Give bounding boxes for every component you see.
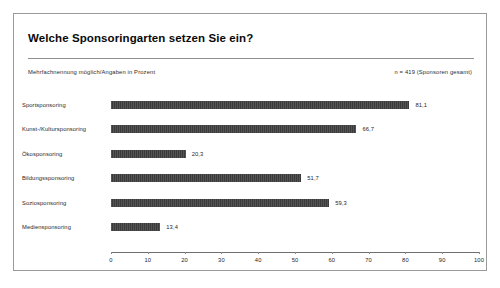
category-label: Mediensponsoring [22,224,106,230]
bar-track: 81,1 [111,101,479,109]
x-tick-mark [111,252,112,254]
bar-value-label: 20,3 [192,151,204,157]
x-tick-label: 100 [474,257,484,263]
bar-track: 59,3 [111,199,479,207]
bar [111,125,356,133]
category-label: Soziosponsoring [22,200,106,206]
bar-row: Soziosponsoring 59,3 [14,192,488,214]
bar [111,199,329,207]
bar-track: 20,3 [111,150,479,158]
x-tick-label: 50 [292,257,299,263]
bar-track: 51,7 [111,174,479,182]
x-tick-label: 40 [255,257,262,263]
bar-value-label: 81,1 [415,102,427,108]
bar-track: 66,7 [111,125,479,133]
bar-track: 13,4 [111,223,479,231]
x-tick-label: 70 [365,257,372,263]
bar-row: Sportsponsoring 81,1 [14,94,488,116]
bar-value-label: 59,3 [335,200,347,206]
bar-value-label: 51,7 [307,175,319,181]
plot-area: Sportsponsoring 81,1 Kunst-/Kultursponso… [14,94,488,272]
bar [111,174,301,182]
x-tick-mark [369,252,370,254]
x-tick-label: 30 [218,257,225,263]
x-tick-mark [295,252,296,254]
x-tick-label: 60 [328,257,335,263]
bar-row: Kunst-/Kultursponsoring 66,7 [14,119,488,141]
x-tick-mark [405,252,406,254]
x-tick-mark [221,252,222,254]
bar-row: Mediensponsoring 13,4 [14,217,488,239]
category-label: Ökosponsoring [22,151,106,157]
bar [111,150,186,158]
x-tick-mark [479,252,480,254]
sample-size-note: n = 419 (Sponsoren gesamt) [394,69,472,75]
x-tick-label: 90 [439,257,446,263]
bar-value-label: 13,4 [166,224,178,230]
x-tick-mark [185,252,186,254]
x-tick-mark [148,252,149,254]
x-tick-label: 10 [144,257,151,263]
bar [111,101,409,109]
bar-row: Ökosponsoring 20,3 [14,143,488,165]
x-tick-label: 0 [109,257,112,263]
category-label: Kunst-/Kultursponsoring [22,126,106,132]
title-divider [28,58,474,59]
x-tick-mark [332,252,333,254]
x-tick-mark [258,252,259,254]
category-label: Bildungssponsoring [22,175,106,181]
bar-value-label: 66,7 [362,126,374,132]
chart-title: Welche Sponsoringarten setzen Sie ein? [28,32,253,44]
bar [111,223,160,231]
bar-row: Bildungssponsoring 51,7 [14,168,488,190]
x-tick-mark [442,252,443,254]
category-label: Sportsponsoring [22,102,106,108]
chart-frame: Welche Sponsoringarten setzen Sie ein? M… [13,13,487,271]
x-tick-label: 80 [402,257,409,263]
chart-subtitle: Mehrfachnennung möglich/Angaben in Proze… [28,69,155,75]
x-tick-label: 20 [181,257,188,263]
